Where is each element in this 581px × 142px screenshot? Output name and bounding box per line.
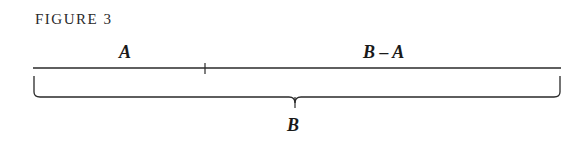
brace: [34, 76, 560, 103]
segment-diagram: [0, 0, 581, 142]
